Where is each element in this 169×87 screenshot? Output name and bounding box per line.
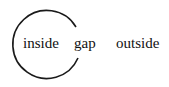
label-gap: gap	[74, 34, 96, 52]
label-inside: inside	[23, 34, 59, 52]
label-outside: outside	[116, 34, 159, 52]
diagram-canvas: inside gap outside	[0, 0, 169, 87]
